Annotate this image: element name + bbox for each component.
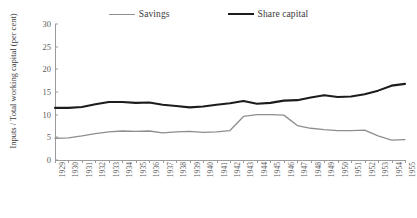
x-tick-mark-1948 [311,160,312,163]
x-tick-mark-1937 [163,160,164,163]
y-axis-title: Inputs / Total working capital (per cent… [8,6,18,156]
x-tick-mark-1933 [109,160,110,163]
x-tick-mark-1950 [338,160,339,163]
x-tick-label-1945: 1945 [273,162,282,177]
x-tick-label-1934: 1934 [125,162,134,177]
x-tick-mark-1945 [270,160,271,163]
x-tick-mark-1932 [95,160,96,163]
x-tick-label-1942: 1942 [233,162,242,177]
x-tick-label-1931: 1931 [85,162,94,177]
y-tick-label-30: 30 [43,19,52,29]
x-tick-label-1930: 1930 [71,162,80,177]
x-tick-mark-1946 [284,160,285,163]
x-tick-mark-1930 [68,160,69,163]
legend-item-savings: Savings [109,9,170,19]
x-tick-mark-1936 [149,160,150,163]
x-tick-mark-1941 [217,160,218,163]
y-tick-label-15: 15 [43,87,52,97]
legend-item-share-capital: Share capital [228,9,309,19]
x-tick-mark-1947 [297,160,298,163]
y-tick-label-0: 0 [47,155,51,165]
legend-label-share-capital: Share capital [258,9,309,19]
x-tick-label-1954: 1954 [395,162,404,177]
x-tick-mark-1944 [257,160,258,163]
x-tick-mark-1954 [392,160,393,163]
chart-container: Savings Share capital Inputs / Total wor… [0,0,417,218]
x-tick-label-1933: 1933 [112,162,121,177]
y-tick-label-20: 20 [43,64,52,74]
x-tick-label-1950: 1950 [341,162,350,177]
line-share-capital [55,84,405,108]
line-savings [55,115,405,140]
x-tick-label-1941: 1941 [220,162,229,177]
x-tick-mark-1940 [203,160,204,163]
x-tick-label-1953: 1953 [381,162,390,177]
x-tick-label-1947: 1947 [300,162,309,177]
x-tick-label-1938: 1938 [179,162,188,177]
x-tick-label-1936: 1936 [152,162,161,177]
x-tick-label-1952: 1952 [368,162,377,177]
x-tick-label-1943: 1943 [246,162,255,177]
x-tick-label-1948: 1948 [314,162,323,177]
x-tick-mark-1931 [82,160,83,163]
x-tick-label-1939: 1939 [193,162,202,177]
legend-label-savings: Savings [139,9,170,19]
legend-swatch-savings-icon [109,14,135,15]
x-tick-mark-1951 [351,160,352,163]
x-tick-mark-1949 [324,160,325,163]
y-tick-label-25: 25 [43,42,52,52]
x-tick-label-1940: 1940 [206,162,215,177]
y-tick-label-10: 10 [43,110,52,120]
x-tick-mark-1952 [365,160,366,163]
y-tick-label-5: 5 [47,132,51,142]
x-tick-label-1935: 1935 [139,162,148,177]
x-tick-label-1949: 1949 [327,162,336,177]
plot-area: 051015202530 [55,24,405,160]
x-tick-label-1932: 1932 [98,162,107,177]
x-tick-mark-1955 [405,160,406,163]
legend-swatch-share-capital-icon [228,13,254,15]
x-tick-mark-1929 [55,160,56,163]
x-tick-mark-1934 [122,160,123,163]
x-tick-mark-1953 [378,160,379,163]
chart-legend: Savings Share capital [0,6,417,22]
x-tick-mark-1935 [136,160,137,163]
x-tick-mark-1943 [243,160,244,163]
x-axis-ticks: 1929193019311932193319341935193619371938… [55,162,405,218]
x-tick-label-1929: 1929 [58,162,67,177]
x-tick-label-1944: 1944 [260,162,269,177]
x-tick-mark-1938 [176,160,177,163]
x-tick-label-1955: 1955 [408,162,417,177]
series-lines [55,24,405,160]
x-tick-mark-1942 [230,160,231,163]
x-tick-label-1951: 1951 [354,162,363,177]
x-tick-label-1937: 1937 [166,162,175,177]
x-tick-mark-1939 [190,160,191,163]
x-tick-label-1946: 1946 [287,162,296,177]
